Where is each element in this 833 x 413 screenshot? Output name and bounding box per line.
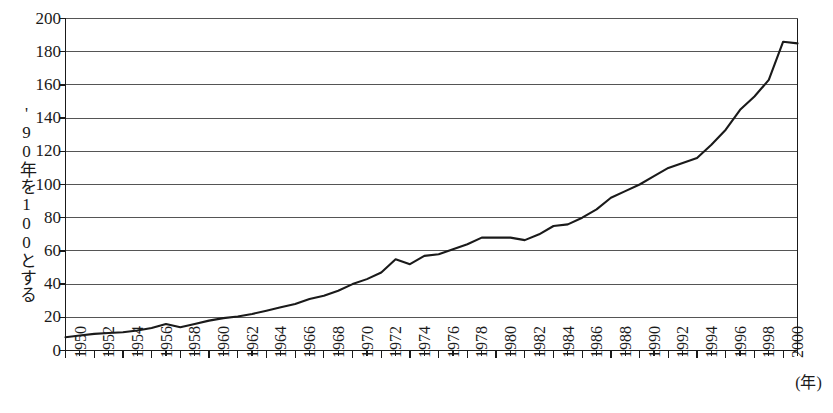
y-axis-tick-label: 180 (27, 43, 61, 60)
y-axis-tick-label: 200 (27, 10, 61, 27)
y-axis-tick-label: 20 (27, 308, 61, 325)
line-chart: '90年を100とする 020406080100120140160180200 … (0, 0, 833, 413)
y-axis-tick-label: 80 (27, 209, 61, 226)
y-axis-tick-label: 40 (27, 275, 61, 292)
y-axis-tick-label: 120 (27, 142, 61, 159)
y-axis-tick-label: 100 (27, 176, 61, 193)
x-axis-unit-label: (年) (795, 375, 822, 391)
plot-area (0, 0, 833, 413)
data-line-series (66, 42, 798, 337)
y-axis-tick-label: 160 (27, 76, 61, 93)
y-axis-tick-label: 0 (27, 342, 61, 359)
y-axis-tick-label: 140 (27, 109, 61, 126)
y-axis-tick-label: 60 (27, 242, 61, 259)
y-axis-tick-labels: 020406080100120140160180200 (25, 0, 61, 413)
